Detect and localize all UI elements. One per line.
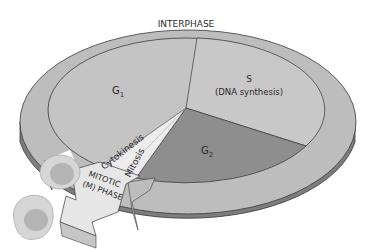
dna-synthesis-label: (DNA synthesis) [215,87,283,97]
daughter-cell-lower [13,195,53,239]
cell-cycle-diagram: INTERPHASE G1 S (DNA synthesis) G2 Cytok… [0,0,365,252]
s-label: S [246,74,252,84]
daughter-cell-upper [40,155,80,189]
interphase-label: INTERPHASE [158,19,215,29]
